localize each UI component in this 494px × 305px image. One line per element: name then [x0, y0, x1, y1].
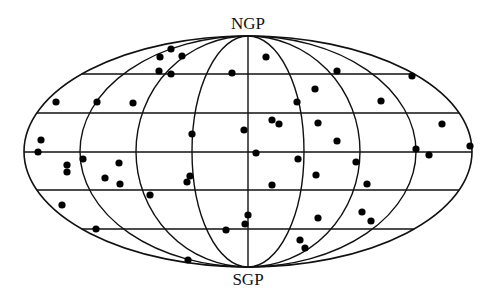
data-point: [184, 256, 191, 263]
data-point: [116, 180, 123, 187]
data-point: [167, 70, 174, 77]
data-point: [314, 214, 321, 221]
data-point: [252, 149, 259, 156]
source-points: [34, 45, 473, 263]
data-point: [352, 158, 359, 165]
data-point: [93, 98, 100, 105]
data-point: [314, 119, 321, 126]
data-point: [363, 180, 370, 187]
coordinate-grid: [24, 36, 472, 267]
data-point: [129, 99, 136, 106]
data-point: [412, 145, 419, 152]
data-point: [333, 137, 340, 144]
data-point: [296, 236, 303, 243]
data-point: [188, 130, 195, 137]
data-point: [408, 72, 415, 79]
data-point: [268, 116, 275, 123]
data-point: [240, 126, 247, 133]
data-point: [63, 168, 70, 175]
data-point: [425, 151, 432, 158]
data-point: [155, 67, 162, 74]
data-point: [79, 155, 86, 162]
data-point: [146, 191, 153, 198]
data-point: [466, 142, 473, 149]
data-point: [311, 85, 318, 92]
data-point: [262, 53, 269, 60]
data-point: [294, 155, 301, 162]
data-point: [358, 208, 365, 215]
data-point: [438, 120, 445, 127]
data-point: [312, 171, 319, 178]
data-point: [275, 120, 282, 127]
data-point: [293, 98, 300, 105]
data-point: [228, 69, 235, 76]
data-point: [37, 136, 44, 143]
data-point: [222, 226, 229, 233]
data-point: [58, 201, 65, 208]
data-point: [241, 220, 248, 227]
south-galactic-pole-label: SGP: [232, 271, 263, 288]
data-point: [63, 161, 70, 168]
data-point: [377, 97, 384, 104]
data-point: [301, 244, 308, 251]
data-point: [367, 217, 374, 224]
data-point: [167, 45, 174, 52]
data-point: [333, 67, 340, 74]
data-point: [52, 98, 59, 105]
data-point: [244, 211, 251, 218]
data-point: [183, 178, 190, 185]
data-point: [156, 53, 163, 60]
data-point: [34, 148, 41, 155]
data-point: [268, 181, 275, 188]
data-point: [92, 225, 99, 232]
sky-map-figure: NGP SGP: [0, 0, 494, 305]
data-point: [115, 159, 122, 166]
data-point: [101, 174, 108, 181]
data-point: [178, 52, 185, 59]
all-sky-projection: [0, 0, 494, 305]
north-galactic-pole-label: NGP: [231, 15, 265, 32]
